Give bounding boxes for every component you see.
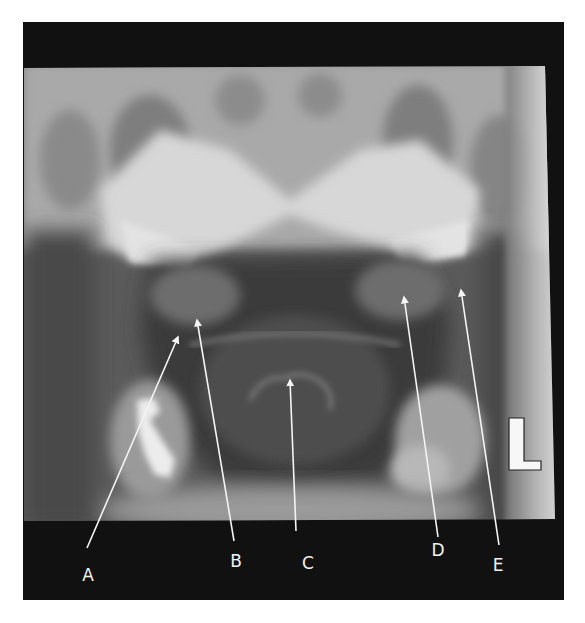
label-d: D xyxy=(431,542,444,559)
label-c: C xyxy=(302,555,314,572)
xray-content xyxy=(20,60,560,535)
label-e: E xyxy=(493,557,504,574)
label-b: B xyxy=(230,553,242,570)
label-a: A xyxy=(82,567,94,584)
xray-image xyxy=(0,0,585,623)
